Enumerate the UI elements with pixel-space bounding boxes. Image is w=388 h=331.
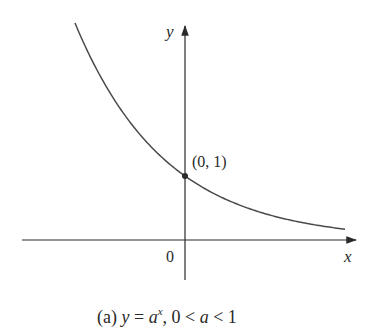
caption-cond-end: < 1 bbox=[209, 307, 237, 327]
caption-prefix: (a) bbox=[97, 307, 117, 328]
exponential-curve bbox=[75, 23, 345, 229]
figure-caption: (a) y = ax, 0 < a < 1 bbox=[97, 305, 237, 328]
point-0-1 bbox=[182, 173, 188, 179]
caption-a: a bbox=[149, 307, 158, 327]
origin-label: 0 bbox=[166, 248, 174, 265]
caption-y: y bbox=[119, 307, 129, 327]
caption-condition: , 0 < bbox=[163, 307, 200, 327]
caption-equals: = bbox=[129, 307, 148, 327]
exponential-graph: (0, 1) y x 0 (a) y = ax, 0 < a < 1 bbox=[0, 0, 388, 331]
x-axis-label: x bbox=[343, 247, 352, 266]
caption-cond-a: a bbox=[200, 307, 209, 327]
y-axis-label: y bbox=[164, 22, 174, 41]
point-label: (0, 1) bbox=[192, 153, 227, 171]
